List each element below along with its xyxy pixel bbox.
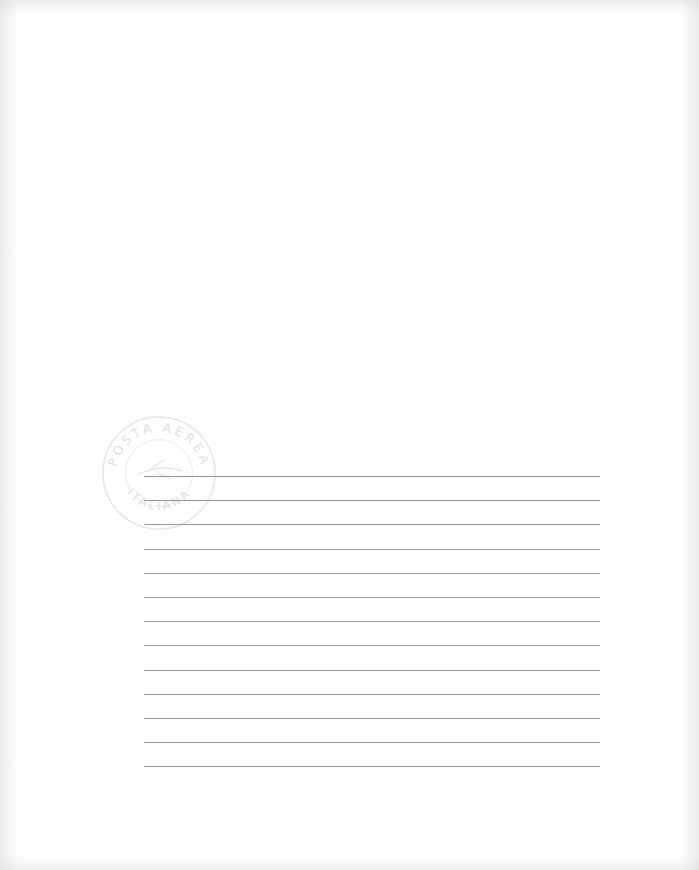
ruled-line	[144, 766, 600, 767]
ruled-line	[144, 500, 600, 501]
ruled-line	[144, 524, 600, 525]
ruled-line	[144, 742, 600, 743]
ruled-line	[144, 549, 600, 550]
ruled-line	[144, 476, 600, 477]
stamp-top-text: POSTA AEREA	[105, 420, 214, 469]
letter-sheet: POSTA AEREA ITALIANA	[0, 0, 699, 870]
ruled-line	[144, 670, 600, 671]
ruled-line	[144, 718, 600, 719]
svg-text:POSTA AEREA: POSTA AEREA	[105, 420, 214, 469]
ruled-line	[144, 645, 600, 646]
ruled-line	[144, 597, 600, 598]
ruled-line	[144, 573, 600, 574]
ruled-line	[144, 621, 600, 622]
ruled-line	[144, 694, 600, 695]
posta-aerea-stamp-icon: POSTA AEREA ITALIANA	[100, 414, 218, 532]
